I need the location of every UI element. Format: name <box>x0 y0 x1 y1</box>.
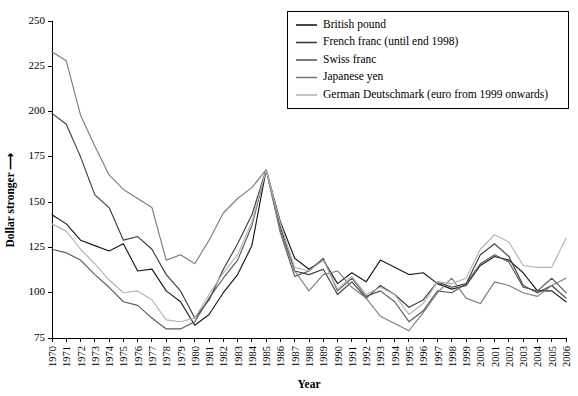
x-tick-label: 1979 <box>176 346 187 367</box>
x-tick-label: 1971 <box>61 346 72 367</box>
legend-label-5: German Deutschmark (euro from 1999 onwar… <box>323 88 548 101</box>
y-tick-label: 150 <box>29 195 46 207</box>
x-tick-label: 1981 <box>204 346 215 367</box>
x-tick-label: 2004 <box>532 345 543 367</box>
x-tick-label: 1978 <box>161 346 172 367</box>
series-line-german-deutschmark-euro-from-1999-onwards <box>52 170 566 322</box>
x-tick-label: 1973 <box>90 346 101 367</box>
x-tick-label: 1993 <box>375 346 386 367</box>
x-tick-label: 2003 <box>518 346 529 367</box>
legend-label-1: British pound <box>323 18 386 31</box>
x-tick-label: 1980 <box>190 346 201 367</box>
x-axis-title: Year <box>298 378 321 390</box>
x-tick-label: 1989 <box>318 346 329 367</box>
x-tick-label: 1975 <box>118 346 129 367</box>
legend-label-2: French franc (until end 1998) <box>323 35 459 48</box>
chart-container: 7510012515017520022525019701971197219731… <box>0 0 578 396</box>
x-tick-label: 1999 <box>461 346 472 367</box>
x-tick-label: 1991 <box>347 346 358 367</box>
x-tick-label: 1990 <box>333 346 344 367</box>
x-tick-label: 1983 <box>233 346 244 367</box>
series-line-french-franc-until-end-1998 <box>52 113 566 318</box>
legend-label-4: Japanese yen <box>323 70 384 83</box>
x-tick-label: 1986 <box>275 346 286 367</box>
x-tick-label: 1985 <box>261 346 272 367</box>
x-tick-label: 1970 <box>47 346 58 367</box>
x-tick-label: 1976 <box>133 346 144 367</box>
x-tick-label: 1997 <box>433 346 444 367</box>
x-tick-label: 1992 <box>361 346 372 367</box>
y-axis-title: Dollar stronger ⟶ <box>4 153 17 248</box>
x-tick-label: 1972 <box>76 346 87 367</box>
x-tick-label: 1996 <box>418 346 429 367</box>
y-tick-label: 175 <box>29 149 46 161</box>
legend-label-3: Swiss franc <box>323 53 376 65</box>
y-tick-label: 200 <box>29 104 46 116</box>
y-tick-label: 250 <box>29 14 46 26</box>
y-tick-label: 75 <box>34 331 46 343</box>
x-tick-label: 1994 <box>390 345 401 367</box>
x-tick-label: 1998 <box>447 346 458 367</box>
y-tick-label: 225 <box>29 59 46 71</box>
x-tick-label: 2005 <box>547 346 558 367</box>
x-tick-label: 1984 <box>247 345 258 367</box>
x-tick-label: 2006 <box>561 346 572 367</box>
x-tick-label: 1988 <box>304 346 315 367</box>
y-tick-label: 125 <box>29 240 46 252</box>
y-tick-label: 100 <box>29 285 46 297</box>
y-axis-title-group: Dollar stronger ⟶ <box>4 153 17 248</box>
x-tick-label: 1995 <box>404 346 415 367</box>
x-tick-label: 2000 <box>475 346 486 367</box>
x-tick-label: 2002 <box>504 346 515 367</box>
x-tick-label: 1987 <box>290 346 301 367</box>
x-tick-label: 2001 <box>490 346 501 367</box>
line-chart: 7510012515017520022525019701971197219731… <box>0 0 578 396</box>
x-tick-label: 1977 <box>147 346 158 367</box>
x-tick-label: 1982 <box>218 346 229 367</box>
x-tick-label: 1974 <box>104 345 115 367</box>
